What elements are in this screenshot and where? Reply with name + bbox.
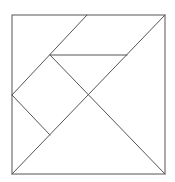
- diagonal-secondary: [50, 55, 165, 174]
- square-lower-edge: [12, 95, 50, 135]
- tangram-diagram: [0, 0, 175, 182]
